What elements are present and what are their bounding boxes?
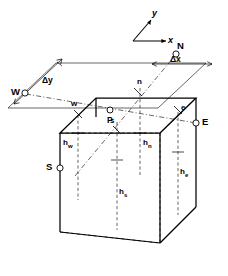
face-label-w: w (71, 100, 77, 108)
reference-plane-lines (8, 63, 206, 108)
distance-label-h-e: he (180, 168, 188, 178)
distance-label-h-s: hs (119, 188, 127, 198)
axis-label-y: y (152, 9, 157, 18)
construction-lines (26, 52, 196, 176)
node-label-E: E (202, 117, 208, 127)
face-label-e: e (181, 104, 185, 112)
axis-indicator (133, 20, 166, 43)
node-label-N: N (177, 41, 184, 51)
distance-label-h-n: hn (143, 139, 152, 149)
distance-label-h-w: hw (63, 139, 73, 149)
control-volume-diagram: x y W E N S P w n s e Δy Δx hw hn he hs (0, 0, 228, 276)
face-label-s: s (110, 117, 114, 125)
diagram-canvas (0, 0, 228, 276)
h-distance-ticks (72, 133, 184, 160)
node-markers (22, 51, 199, 171)
node-marker-E (193, 120, 199, 126)
dimension-label-dx: Δx (170, 55, 181, 64)
control-volume-hidden-edges (60, 98, 196, 243)
node-marker-S (57, 165, 63, 171)
node-marker-W (22, 90, 28, 96)
dimension-label-dy: Δy (42, 76, 53, 85)
node-marker-P (107, 107, 113, 113)
node-label-W: W (11, 87, 20, 97)
axis-label-x: x (168, 36, 173, 45)
face-label-n: n (137, 78, 142, 86)
h-distance-leaders (78, 88, 178, 230)
node-label-S: S (46, 162, 52, 172)
control-volume-edges (60, 98, 196, 243)
